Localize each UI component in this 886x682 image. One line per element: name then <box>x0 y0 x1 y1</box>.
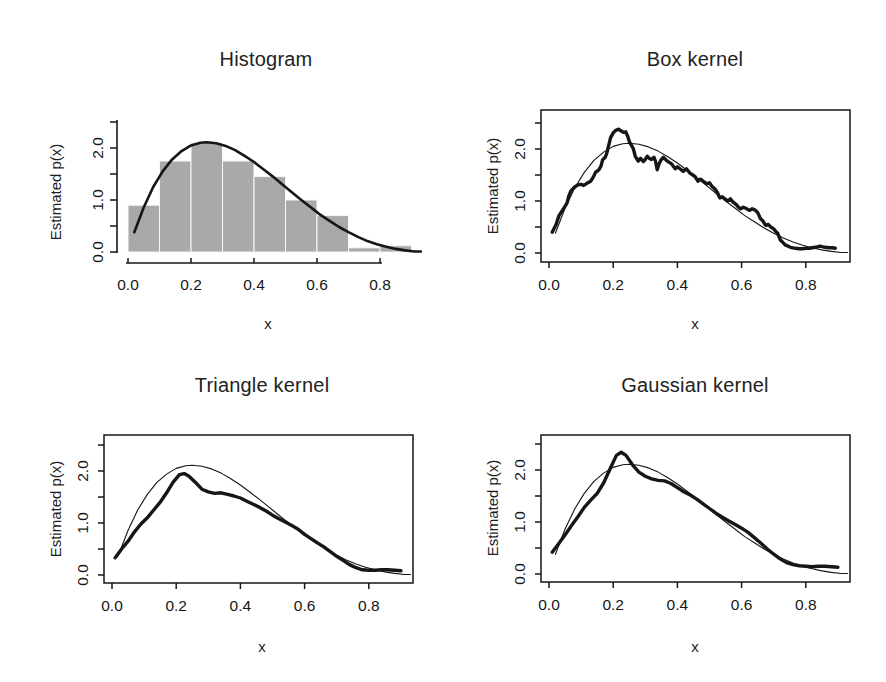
panel-triangle-kernel: 0.00.20.40.60.80.01.02.0 Triangle kernel… <box>0 341 443 682</box>
x-axis-label: x <box>264 315 272 332</box>
panel-box-kernel: 0.00.20.40.60.80.01.02.0 Box kernel Esti… <box>443 0 886 341</box>
true-density-p(x)-line <box>118 465 410 574</box>
y-tick-label: 0.0 <box>74 564 91 586</box>
y-tick-label: 1.0 <box>511 190 528 212</box>
x-tick-label: 0.6 <box>306 276 328 293</box>
y-tick-label: 0.0 <box>511 563 528 585</box>
x-tick-label: 0.2 <box>180 276 202 293</box>
plot-frame <box>104 435 413 583</box>
histogram-bar <box>160 161 192 252</box>
y-tick-label: 2.0 <box>511 459 528 481</box>
x-tick-label: 0.4 <box>230 597 252 614</box>
plot-frame <box>541 435 850 582</box>
x-tick-label: 0.6 <box>731 276 753 293</box>
y-tick-label: 1.0 <box>511 511 528 533</box>
x-tick-label: 0.6 <box>731 596 753 613</box>
panel-title-histogram: Histogram <box>220 48 313 71</box>
panel-histogram: 0.00.20.40.60.80.01.02.0 Histogram Estim… <box>0 0 443 341</box>
y-tick-label: 0.0 <box>89 241 106 263</box>
true-density-p(x)-line <box>555 143 847 252</box>
histogram-bar <box>349 248 381 252</box>
x-tick-label: 0.0 <box>538 596 560 613</box>
panel-title-gaussian-kernel: Gaussian kernel <box>621 374 769 397</box>
figure-grid: 0.00.20.40.60.80.01.02.0 Histogram Estim… <box>0 0 886 682</box>
y-tick-label: 1.0 <box>89 189 106 211</box>
y-axis-label: Estimated p(x) <box>47 144 64 241</box>
box-kernel-estimate-line <box>552 129 835 249</box>
x-tick-label: 0.0 <box>117 276 139 293</box>
x-tick-label: 0.0 <box>101 597 123 614</box>
x-tick-label: 0.8 <box>358 597 380 614</box>
histogram-bar <box>254 177 286 252</box>
panel-gaussian-kernel: 0.00.20.40.60.80.01.02.0 Gaussian kernel… <box>443 341 886 682</box>
x-tick-label: 0.8 <box>369 276 391 293</box>
histogram-bar <box>128 205 160 252</box>
x-tick-label: 0.0 <box>538 276 560 293</box>
x-tick-label: 0.2 <box>165 597 187 614</box>
plot-frame <box>541 110 850 262</box>
y-tick-label: 0.0 <box>511 242 528 264</box>
x-tick-label: 0.4 <box>667 596 689 613</box>
x-tick-label: 0.6 <box>294 597 316 614</box>
x-tick-label: 0.8 <box>795 596 817 613</box>
gaussian-kernel-estimate-line <box>552 452 838 567</box>
x-tick-label: 0.4 <box>667 276 689 293</box>
y-tick-label: 2.0 <box>89 137 106 159</box>
y-tick-label: 2.0 <box>74 460 91 482</box>
x-axis-label: x <box>691 638 699 655</box>
histogram-bar <box>317 216 349 252</box>
x-tick-label: 0.4 <box>243 276 265 293</box>
panel-title-triangle-kernel: Triangle kernel <box>195 374 330 397</box>
true-density-p(x)-line <box>555 464 847 573</box>
x-axis-label: x <box>258 638 266 655</box>
y-axis-label: Estimated p(x) <box>484 138 501 235</box>
x-tick-label: 0.2 <box>602 596 624 613</box>
triangle-kernel-estimate-line <box>115 474 401 571</box>
histogram-bar <box>191 143 223 252</box>
panel-title-box-kernel: Box kernel <box>647 48 744 71</box>
y-axis-label: Estimated p(x) <box>47 461 64 558</box>
y-axis-label: Estimated p(x) <box>484 460 501 557</box>
x-tick-label: 0.8 <box>795 276 817 293</box>
y-tick-label: 2.0 <box>511 138 528 160</box>
y-tick-label: 1.0 <box>74 512 91 534</box>
x-tick-label: 0.2 <box>602 276 624 293</box>
histogram-bar <box>223 161 255 252</box>
x-axis-label: x <box>691 315 699 332</box>
